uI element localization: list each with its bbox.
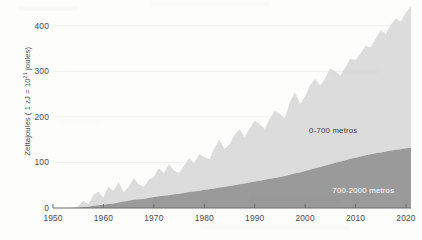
x-axis-tick-2000: 2000 <box>295 213 314 223</box>
x-axis-tick-1970: 1970 <box>144 213 163 223</box>
scan-artifact <box>150 2 270 6</box>
y-axis-tick-400: 400 <box>35 21 49 31</box>
x-axis-tick-1950: 1950 <box>43 213 62 223</box>
x-axis-tick-2020: 2020 <box>396 213 415 223</box>
x-axis-tick-1960: 1960 <box>94 213 113 223</box>
y-axis-tick-0: 0 <box>44 203 49 213</box>
y-axis-tick-labels: 0100200300400 <box>0 0 49 240</box>
scan-artifact <box>200 225 350 230</box>
y-axis-tick-300: 300 <box>35 66 49 76</box>
y-axis-tick-200: 200 <box>35 112 49 122</box>
series-label-0-700-metros: 0-700 metros <box>309 126 357 135</box>
x-axis-tick-1980: 1980 <box>195 213 214 223</box>
x-axis-tick-2010: 2010 <box>346 213 365 223</box>
series-label-700-2000-metros: 700-2000 metros <box>332 186 394 195</box>
y-axis-tick-100: 100 <box>35 157 49 167</box>
plot-svg <box>53 12 411 208</box>
plot-area <box>53 12 411 208</box>
x-axis-tick-1990: 1990 <box>245 213 264 223</box>
ocean-heat-content-chart: Zettajoules ( 1 zJ = 1021 joules) 010020… <box>0 0 422 240</box>
